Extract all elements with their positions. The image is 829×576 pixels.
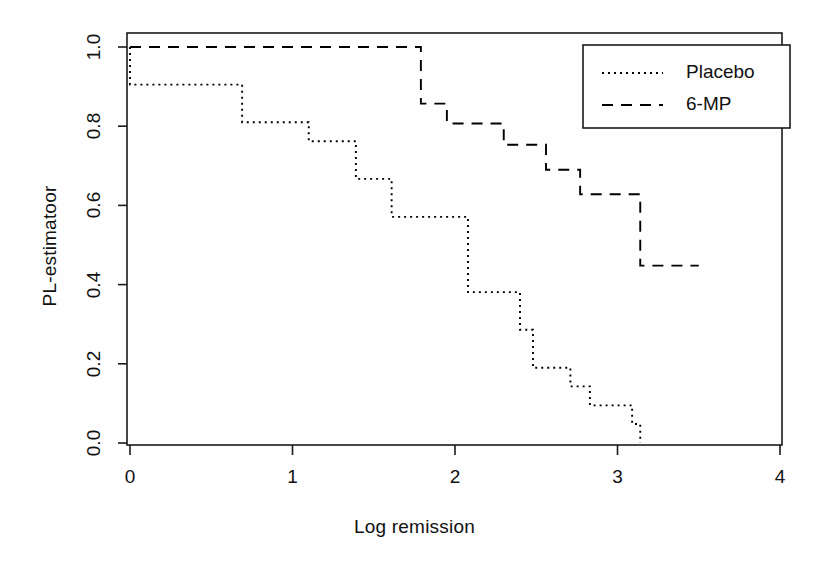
y-axis-ticks <box>118 47 127 443</box>
figure-canvas: Log remission PL-estimatoor 01234 0.00.2… <box>0 0 829 576</box>
x-axis-ticks <box>130 445 780 455</box>
series-line-placebo <box>130 47 640 443</box>
x-tick-label: 1 <box>273 466 313 488</box>
y-tick-label: 0.2 <box>83 339 105 389</box>
y-tick-label: 0.8 <box>83 101 105 151</box>
y-tick-label: 0.0 <box>83 418 105 468</box>
legend-box <box>583 45 790 128</box>
legend-label-6-mp: 6-MP <box>686 93 731 115</box>
legend-label-placebo: Placebo <box>686 61 755 83</box>
x-tick-label: 3 <box>598 466 638 488</box>
step-plot <box>0 0 829 576</box>
y-tick-label: 0.4 <box>83 260 105 310</box>
x-tick-label: 4 <box>760 466 800 488</box>
y-tick-label: 0.6 <box>83 180 105 230</box>
y-axis-title: PL-estimatoor <box>39 136 61 356</box>
x-tick-label: 0 <box>110 466 150 488</box>
x-tick-label: 2 <box>435 466 475 488</box>
x-axis-title: Log remission <box>0 516 829 538</box>
y-tick-label: 1.0 <box>83 22 105 72</box>
